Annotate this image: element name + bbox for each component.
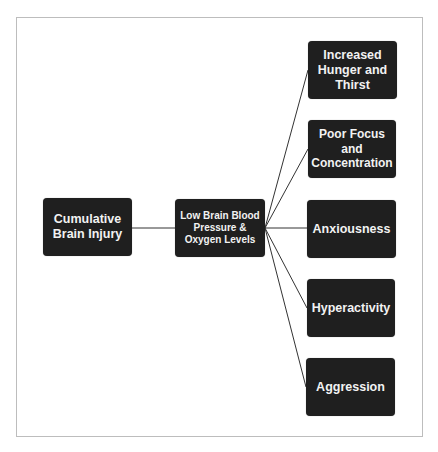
edge-mechanism-effect1 bbox=[265, 70, 308, 228]
node-label: Hyperactivity bbox=[312, 301, 391, 316]
node-increased-hunger-thirst: Increased Hunger and Thirst bbox=[308, 41, 397, 99]
edge-mechanism-effect5 bbox=[265, 228, 306, 387]
node-label: Increased Hunger and Thirst bbox=[318, 48, 387, 93]
edge-mechanism-effect4 bbox=[265, 228, 307, 308]
node-label: Poor Focus and Concentration bbox=[311, 127, 392, 170]
node-label: Anxiousness bbox=[313, 222, 391, 237]
node-aggression: Aggression bbox=[306, 358, 395, 416]
node-low-brain-blood-pressure: Low Brain Blood Pressure & Oxygen Levels bbox=[175, 199, 265, 257]
node-label: Cumulative Brain Injury bbox=[53, 212, 122, 242]
node-anxiousness: Anxiousness bbox=[307, 200, 396, 258]
edge-mechanism-effect2 bbox=[265, 149, 308, 228]
node-hyperactivity: Hyperactivity bbox=[307, 279, 395, 337]
node-label: Low Brain Blood Pressure & Oxygen Levels bbox=[180, 210, 259, 246]
node-label: Aggression bbox=[316, 380, 385, 395]
node-poor-focus: Poor Focus and Concentration bbox=[308, 120, 396, 178]
node-cumulative-brain-injury: Cumulative Brain Injury bbox=[43, 198, 132, 256]
